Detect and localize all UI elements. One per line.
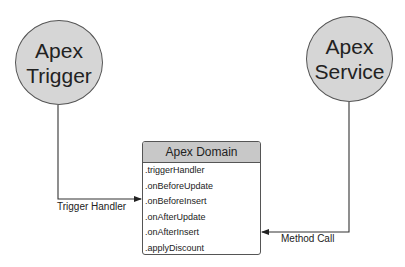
apex-trigger-label-line1: Apex: [35, 38, 83, 63]
apex-trigger-label-line2: Trigger: [26, 63, 92, 88]
apex-service-node[interactable]: Apex Service: [306, 16, 393, 102]
method-on-before-insert: .onBeforeInsert: [143, 194, 260, 210]
method-on-after-insert: .onAfterInsert: [143, 225, 260, 241]
method-on-before-update: .onBeforeUpdate: [143, 179, 260, 195]
method-trigger-handler: .triggerHandler: [143, 163, 260, 179]
apex-service-label-line2: Service: [314, 59, 384, 84]
apex-domain-title: Apex Domain: [143, 142, 260, 163]
method-call-label: Method Call: [281, 233, 334, 244]
method-on-after-update: .onAfterUpdate: [143, 210, 260, 226]
trigger-handler-label: Trigger Handler: [57, 201, 126, 212]
apex-trigger-node[interactable]: Apex Trigger: [15, 20, 103, 105]
apex-service-label-line1: Apex: [326, 34, 374, 59]
apex-domain-method-list: .triggerHandler .onBeforeUpdate .onBefor…: [143, 163, 260, 255]
method-call-connector: [262, 102, 349, 232]
diagram-canvas: Apex Trigger Apex Service Apex Domain .t…: [0, 0, 405, 267]
trigger-handler-connector: [58, 105, 141, 199]
apex-domain-node[interactable]: Apex Domain .triggerHandler .onBeforeUpd…: [142, 141, 261, 255]
method-apply-discount: .applyDiscount: [143, 241, 260, 256]
